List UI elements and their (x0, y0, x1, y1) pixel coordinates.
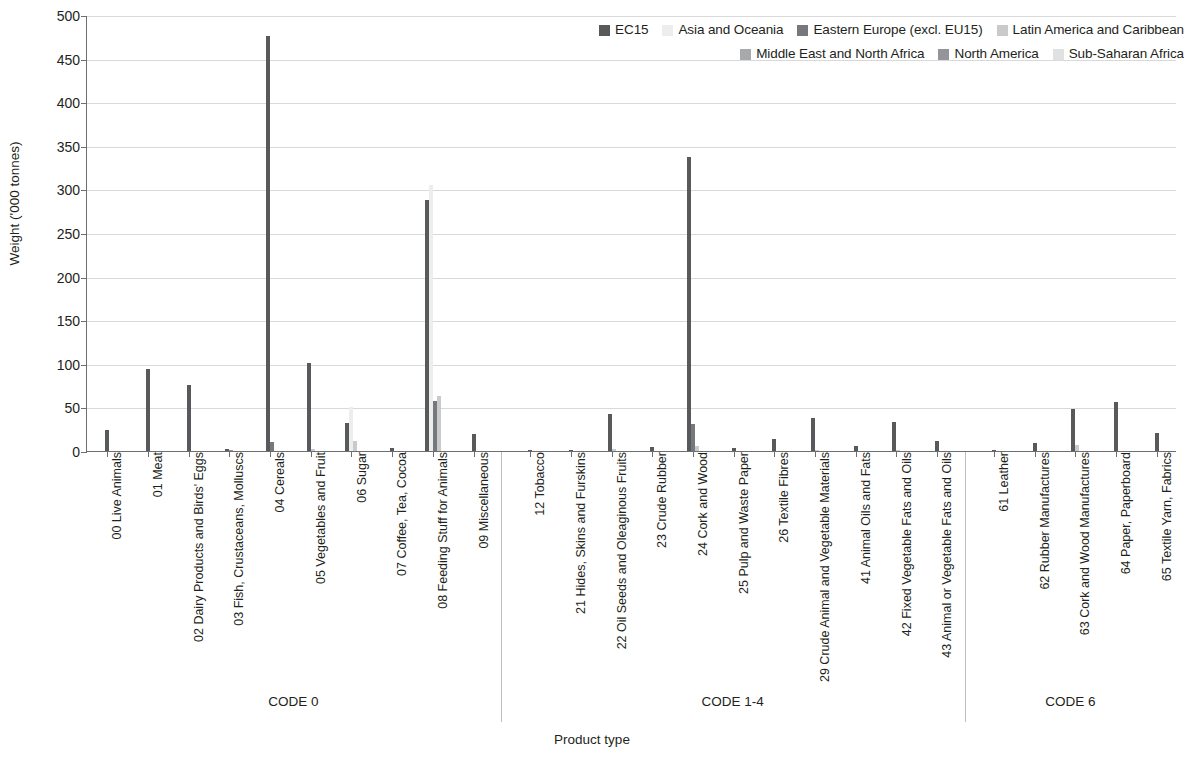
bar-cluster (510, 16, 551, 451)
x-category-label: 26 Textile Fibres (778, 452, 791, 543)
group-label: CODE 6 (1045, 694, 1095, 709)
y-tick-label: 250 (34, 226, 80, 242)
bar-group (591, 16, 632, 451)
bar-group (453, 16, 494, 451)
bar-cluster (974, 16, 1015, 451)
x-axis-category-labels: 00 Live Animals01 Meat02 Dairy Products … (86, 452, 1176, 682)
bar[interactable] (266, 36, 270, 451)
bar[interactable] (811, 418, 815, 451)
y-axis-tick-labels: 050100150200250300350400450500 (22, 16, 80, 452)
bar[interactable] (146, 369, 150, 451)
group-separator (965, 452, 966, 722)
bar[interactable] (353, 441, 357, 451)
x-category-label: 12 Tobacco (534, 452, 547, 516)
x-category-label: 08 Feeding Stuff for Animals (437, 452, 450, 609)
bar-group (551, 16, 592, 451)
bar-cluster (876, 16, 917, 451)
bar[interactable] (187, 385, 191, 451)
chart-page: EC15Asia and OceaniaEastern Europe (excl… (0, 0, 1184, 764)
bar-cluster (87, 16, 128, 451)
bar[interactable] (437, 396, 441, 451)
group-label: CODE 0 (268, 694, 318, 709)
x-category-label: 25 Pulp and Waste Paper (738, 452, 751, 594)
bar-group (632, 16, 673, 451)
x-category-label: 23 Crude Rubber (656, 452, 669, 548)
x-category-label: 65 Textile Yarn, Fabrics (1161, 452, 1174, 581)
bar-cluster (413, 16, 454, 451)
x-category-label: 06 Sugar (356, 452, 369, 503)
bar-group (290, 16, 331, 451)
y-tick-label: 50 (34, 400, 80, 416)
bar-group (876, 16, 917, 451)
x-category-label: 03 Fish, Crustaceans, Molluscs (233, 452, 246, 626)
bar[interactable] (270, 442, 274, 451)
y-tick-label: 450 (34, 52, 80, 68)
bar-group (974, 16, 1015, 451)
bar[interactable] (1114, 402, 1118, 451)
bar-cluster (331, 16, 372, 451)
bar-group (209, 16, 250, 451)
bar[interactable] (935, 441, 939, 451)
bar-cluster (372, 16, 413, 451)
x-category-label: 63 Cork and Wood Manufactures (1079, 452, 1092, 635)
x-category-label: 43 Animal or Vegetable Fats and Oils (941, 452, 954, 658)
x-category-label: 07 Coffee, Tea, Cocoa (396, 452, 409, 576)
bar-group (795, 16, 836, 451)
bar-group (754, 16, 795, 451)
bar-group (713, 16, 754, 451)
bar-cluster (168, 16, 209, 451)
bar[interactable] (695, 446, 699, 451)
y-tick-label: 150 (34, 313, 80, 329)
bar-cluster (209, 16, 250, 451)
bar-group (168, 16, 209, 451)
bar-cluster (917, 16, 958, 451)
bar[interactable] (1155, 433, 1159, 451)
bar[interactable] (892, 422, 896, 451)
bar[interactable] (687, 157, 691, 451)
y-tick-label: 500 (34, 8, 80, 24)
bar-cluster (1096, 16, 1137, 451)
bar-group (128, 16, 169, 451)
bar-cluster (128, 16, 169, 451)
x-category-label: 21 Hides, Skins and Furskins (575, 452, 588, 614)
bar[interactable] (307, 363, 311, 451)
bar-cluster (453, 16, 494, 451)
bar-cluster (632, 16, 673, 451)
bar-group (372, 16, 413, 451)
x-category-label: 02 Dairy Products and Birds' Eggs (193, 452, 206, 642)
bar-group (1014, 16, 1055, 451)
bar-cluster (754, 16, 795, 451)
x-axis-title: Product type (0, 732, 1184, 747)
bar[interactable] (472, 434, 476, 451)
x-category-label: 01 Meat (152, 452, 165, 497)
x-category-label: 24 Cork and Wood (697, 452, 710, 556)
bar-group (413, 16, 454, 451)
y-axis-title: Weight ('000 tonnes) (7, 114, 22, 294)
y-tick-label: 400 (34, 95, 80, 111)
bar[interactable] (105, 430, 109, 451)
bar-group (673, 16, 714, 451)
bar-cluster (673, 16, 714, 451)
bar[interactable] (608, 414, 612, 451)
bar[interactable] (772, 439, 776, 451)
y-tick-label: 100 (34, 357, 80, 373)
y-tick-label: 0 (34, 444, 80, 460)
x-category-label: 00 Live Animals (111, 452, 124, 540)
bar-group (510, 16, 551, 451)
bar-cluster (290, 16, 331, 451)
y-tick-label: 350 (34, 139, 80, 155)
bar[interactable] (1033, 443, 1037, 451)
bar-cluster (250, 16, 291, 451)
bar-cluster (1136, 16, 1177, 451)
bar-group (1096, 16, 1137, 451)
x-category-label: 41 Animal Oils and Fats (860, 452, 873, 584)
bar-cluster (795, 16, 836, 451)
x-category-label: 09 Miscellaneous (478, 452, 491, 549)
bar-group (835, 16, 876, 451)
bar-cluster (591, 16, 632, 451)
x-category-label: 61 Leather (998, 452, 1011, 512)
x-category-label: 04 Cereals (274, 452, 287, 512)
x-category-label: 42 Fixed Vegetable Fats and Oils (901, 452, 914, 636)
x-category-label: 05 Vegetables and Fruit (315, 452, 328, 584)
y-tick-label: 200 (34, 270, 80, 286)
